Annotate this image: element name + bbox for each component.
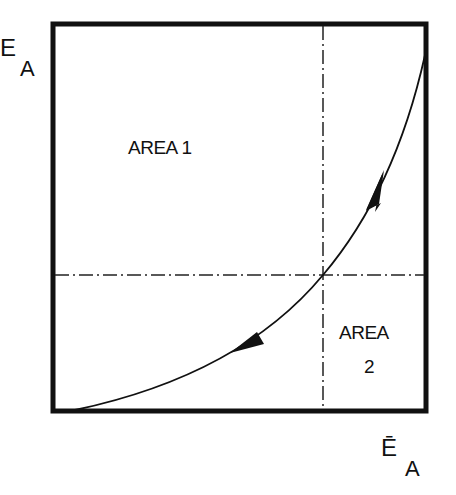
- area-2-label-line2: 2: [364, 357, 374, 376]
- y-axis-label: E: [0, 36, 16, 60]
- x-axis-label-subscript: A: [405, 458, 420, 480]
- diagram-canvas: [0, 0, 456, 495]
- frame-box: [53, 24, 426, 411]
- area-1-label: AREA 1: [128, 138, 192, 157]
- area-2-label-line1: AREA: [339, 323, 389, 342]
- y-axis-label-subscript: A: [20, 58, 35, 80]
- x-axis-label: Ē: [381, 436, 397, 460]
- y-axis-label-main: E: [0, 34, 16, 61]
